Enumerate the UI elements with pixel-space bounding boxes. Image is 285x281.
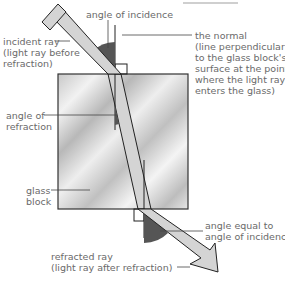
- label-angle-of-incidence: angle of incidence: [86, 9, 173, 20]
- label-angle-of-refraction: angle of refraction: [6, 110, 52, 132]
- label-glass-block: glass block: [26, 185, 51, 207]
- label-incident-ray: incident ray (light ray before refractio…: [3, 36, 80, 69]
- label-the-normal: the normal (line perpendicular to the gl…: [195, 30, 285, 96]
- label-angle-equal: angle equal to angle of incidence: [205, 220, 285, 242]
- label-refracted-ray: refracted ray (light ray after refractio…: [51, 251, 172, 273]
